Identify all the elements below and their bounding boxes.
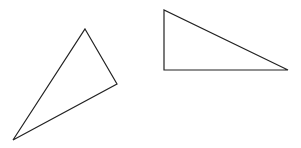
triangle-left — [13, 29, 117, 140]
diagram-canvas — [0, 0, 301, 148]
triangle-right — [164, 10, 288, 70]
